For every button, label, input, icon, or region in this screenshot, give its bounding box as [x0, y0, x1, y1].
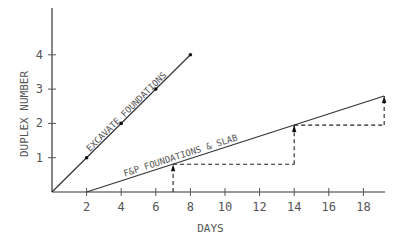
x-tick-label: 8	[187, 200, 194, 214]
x-tick-label: 16	[322, 200, 336, 214]
x-tick-label: 12	[252, 200, 266, 214]
data-point-marker	[85, 156, 89, 160]
excavate-foundations-label: EXCAVATE FOUNDATIONS	[84, 70, 168, 153]
x-tick-label: 10	[218, 200, 232, 214]
x-tick-label: 14	[287, 200, 301, 214]
x-axis-label: DAYS	[197, 222, 224, 235]
x-tick-label: 4	[118, 200, 125, 214]
fp-foundations-slab-label: F&P FOUNDATIONS & SLAB	[122, 132, 239, 178]
y-tick-label: 4	[36, 48, 43, 62]
arrow-up-icon	[292, 125, 296, 132]
arrow-up-icon	[171, 164, 175, 171]
line-chart: 246810121416181234DAYSDUPLEX NUMBEREXCAV…	[0, 0, 403, 239]
data-point-marker	[189, 53, 193, 57]
y-axis-label: DUPLEX NUMBER	[18, 71, 31, 157]
y-tick-label: 2	[36, 116, 43, 130]
chart-canvas: 246810121416181234DAYSDUPLEX NUMBEREXCAV…	[0, 0, 403, 239]
x-tick-label: 18	[356, 200, 370, 214]
x-tick-label: 2	[83, 200, 90, 214]
x-tick-label: 6	[152, 200, 159, 214]
y-tick-label: 3	[36, 82, 43, 96]
y-tick-label: 1	[36, 151, 43, 165]
